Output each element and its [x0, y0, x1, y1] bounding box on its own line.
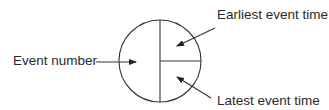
latest-time-arrow	[177, 77, 211, 98]
earliest-event-time-label: Earliest event time	[217, 8, 328, 22]
event-node-diagram: Event number Earliest event time Latest …	[0, 0, 329, 110]
latest-event-time-label: Latest event time	[217, 94, 320, 108]
event-number-label: Event number	[13, 54, 97, 68]
earliest-time-arrow	[177, 28, 215, 46]
